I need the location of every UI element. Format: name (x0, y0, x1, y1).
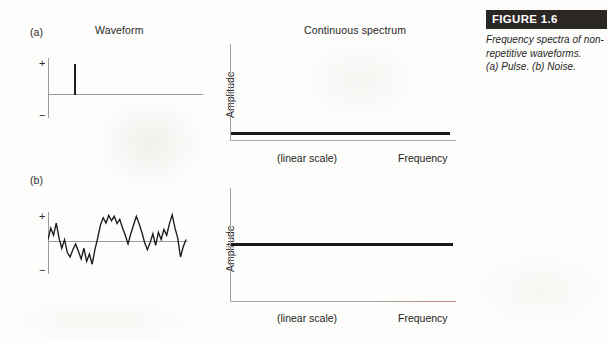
figure-number-banner: FIGURE 1.6 (486, 10, 607, 29)
figure-caption-line: (a) Pulse. (b) Noise. (486, 60, 603, 74)
spectrum-scale-note: (linear scale) (277, 152, 337, 164)
column-title-waveform: Waveform (95, 24, 144, 36)
scan-artifact (0, 300, 200, 340)
spectrum-x-axis-label: Frequency (398, 152, 448, 164)
waveform-y-axis (48, 58, 49, 118)
waveform-minus-label: − (39, 110, 45, 121)
panel-label-a: (a) (30, 26, 43, 38)
column-title-spectrum: Continuous spectrum (304, 24, 406, 36)
spectrum-x-axis (230, 140, 456, 141)
noise-trace (48, 209, 190, 275)
figure-caption-box: FIGURE 1.6 Frequency spectra of non-repe… (486, 10, 607, 74)
spectrum-y-axis (230, 44, 231, 141)
spectrum-x-axis-label: Frequency (398, 312, 448, 324)
waveform-plus-label: + (39, 211, 45, 222)
spectrum-x-axis (230, 301, 456, 302)
scan-artifact (95, 95, 205, 190)
spectrum-scale-note: (linear scale) (277, 312, 337, 324)
spectrum-trace (231, 243, 453, 246)
pulse-impulse (74, 64, 76, 95)
scan-artifact (470, 250, 610, 330)
figure-caption-line: repetitive waveforms. (486, 47, 603, 61)
scan-artifact (300, 40, 420, 120)
waveform-x-axis (48, 94, 203, 95)
waveform-plus-label: + (39, 58, 45, 69)
figure-caption-line: Frequency spectra of non- (486, 33, 603, 47)
panel-label-b: (b) (30, 174, 43, 186)
waveform-minus-label: − (39, 265, 45, 276)
figure-caption-text: Frequency spectra of non-repetitive wave… (486, 33, 607, 74)
spectrum-trace (231, 132, 450, 135)
